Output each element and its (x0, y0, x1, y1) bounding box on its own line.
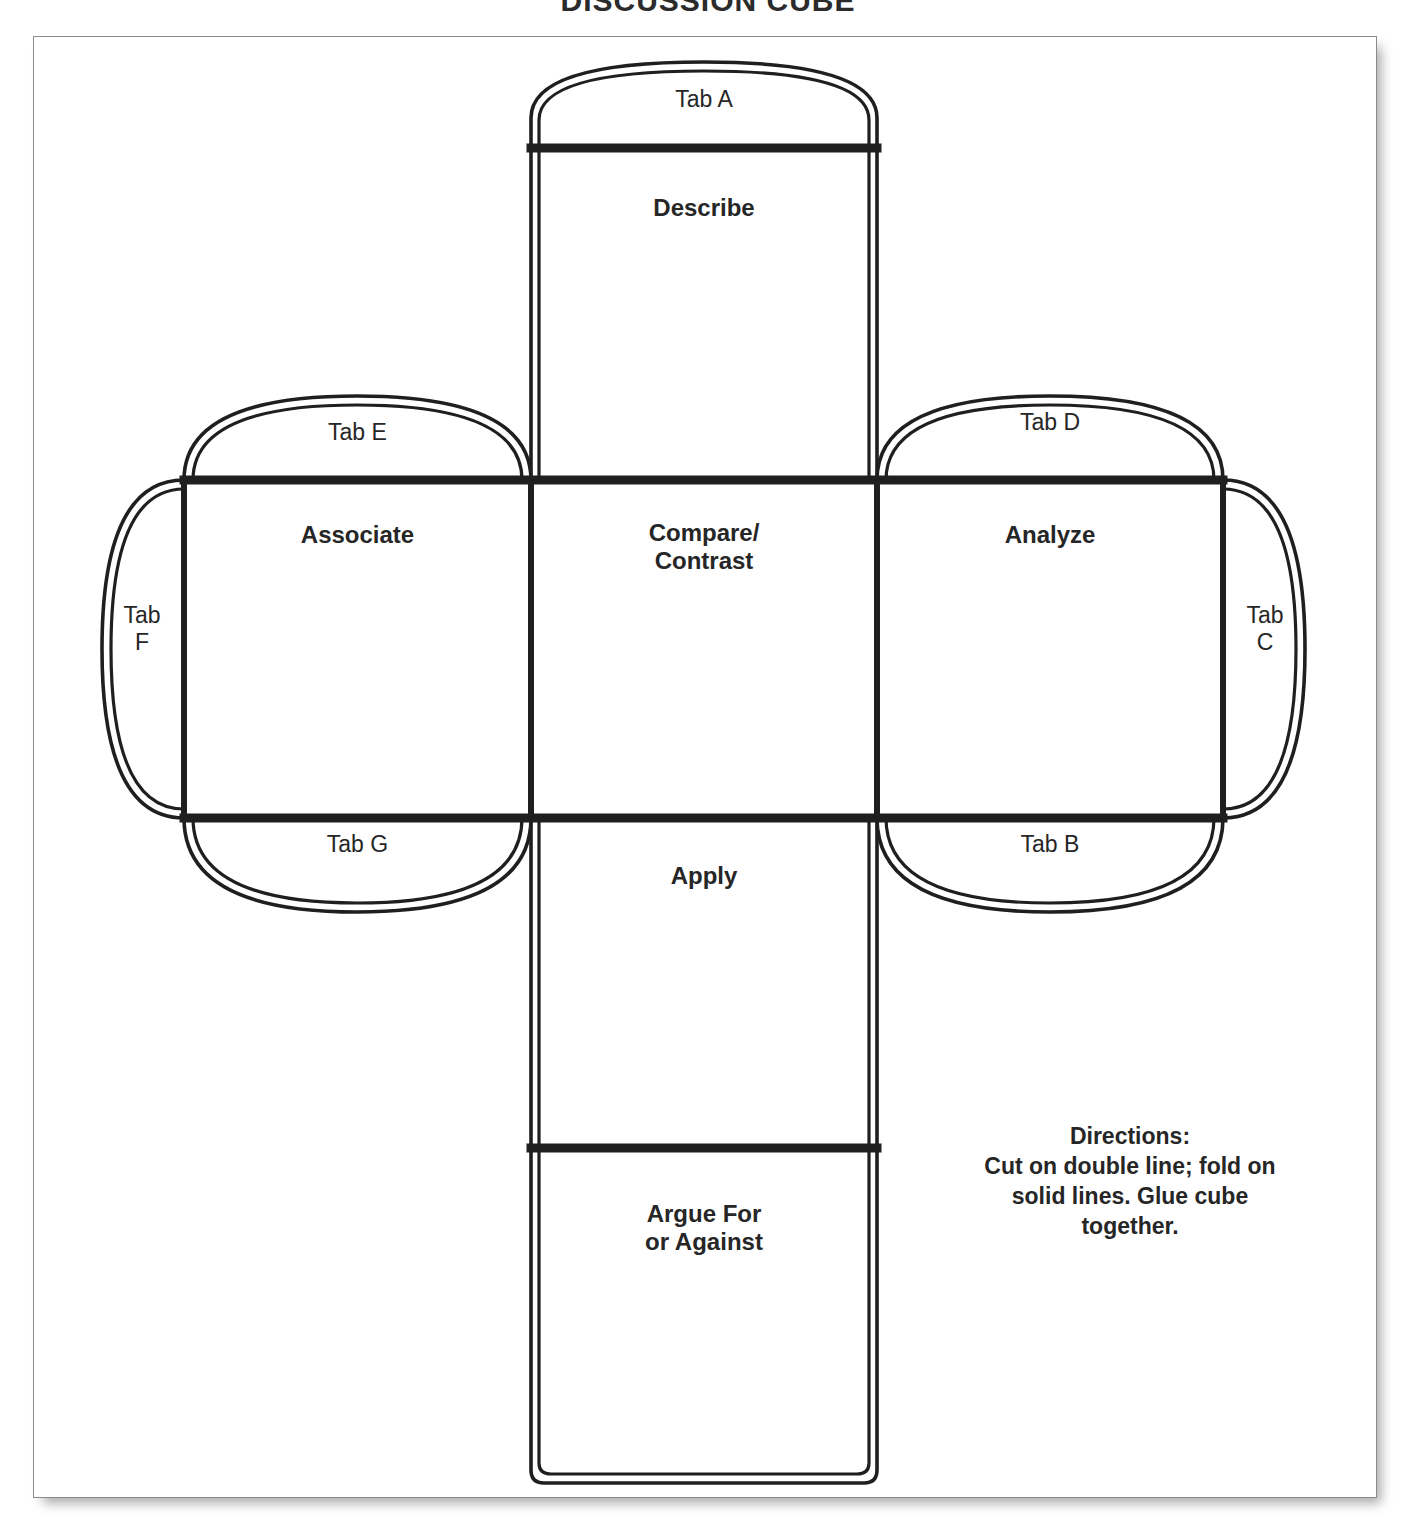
tab-label-c: Tab C (1223, 602, 1307, 656)
tab-label-e: Tab E (184, 419, 531, 446)
page-title: DISCUSSION CUBE (0, 0, 1416, 18)
paper-sheet (33, 36, 1377, 1498)
tab-label-b: Tab B (877, 831, 1223, 858)
face-label-describe: Describe (531, 194, 877, 222)
worksheet-root: DISCUSSION CUBE (0, 0, 1416, 1524)
face-label-associate: Associate (184, 521, 531, 549)
face-label-argue: Argue For or Against (531, 1200, 877, 1257)
face-label-analyze: Analyze (877, 521, 1223, 549)
face-label-compare-contrast: Compare/ Contrast (531, 519, 877, 576)
tab-label-d: Tab D (877, 409, 1223, 436)
face-label-apply: Apply (531, 862, 877, 890)
tab-label-f: Tab F (100, 602, 184, 656)
directions-text: Directions: Cut on double line; fold on … (930, 1122, 1330, 1242)
tab-label-g: Tab G (184, 831, 531, 858)
tab-label-a: Tab A (531, 86, 877, 113)
